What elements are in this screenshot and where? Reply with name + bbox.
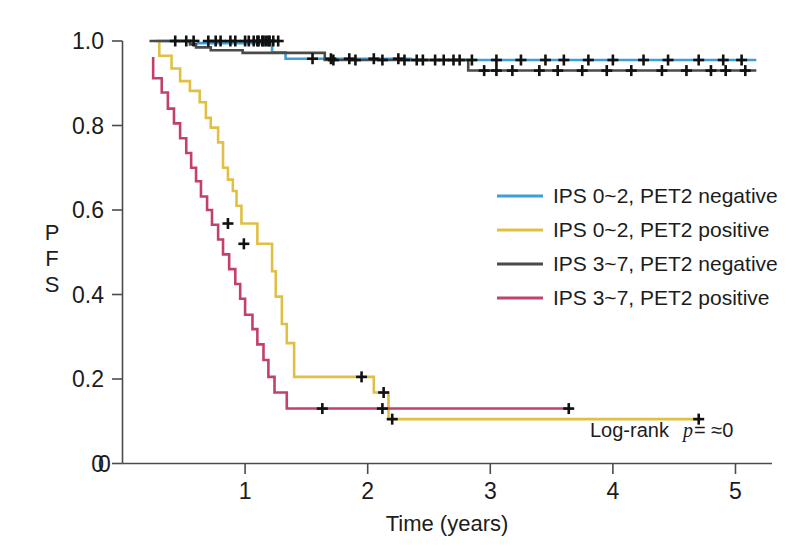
x-axis-title: Time (years) <box>386 511 509 536</box>
censor-mark <box>350 55 361 66</box>
legend-item-0: IPS 0~2, PET2 negative <box>497 184 778 207</box>
x-tick-label-5: 5 <box>729 478 742 504</box>
y-tick-marks <box>112 41 123 464</box>
censor-mark <box>663 55 674 66</box>
logrank-annotation: Log-rank p = ≈0 <box>590 419 733 442</box>
logrank-value: = ≈0 <box>694 419 733 441</box>
censor-mark <box>454 55 465 66</box>
x-tick-label-0: 0 <box>98 451 111 477</box>
censor-mark <box>377 55 388 66</box>
censor-mark <box>399 55 410 66</box>
censor-mark <box>681 65 692 76</box>
censor-mark <box>626 65 637 76</box>
censor-mark <box>356 371 367 382</box>
censor-mark <box>720 65 731 76</box>
censor-mark <box>534 65 545 76</box>
logrank-prefix: Log-rank <box>590 419 670 441</box>
censor-mark <box>328 55 339 66</box>
censor-mark <box>583 55 594 66</box>
censor-mark <box>417 55 428 66</box>
censor-mark <box>377 403 388 414</box>
censor-mark <box>736 55 747 66</box>
legend-label-2: IPS 3~7, PET2 negative <box>553 252 778 275</box>
y-tick-labels: 00.20.40.60.81.0 <box>72 28 104 477</box>
y-tick-label-0.2: 0.2 <box>72 366 104 392</box>
y-tick-label-1.0: 1.0 <box>72 28 104 54</box>
y-tick-label-0.4: 0.4 <box>72 282 104 308</box>
censor-mark <box>317 403 328 414</box>
censor-mark <box>507 65 518 76</box>
censor-mark <box>307 53 318 64</box>
logrank-p-symbol: p <box>681 419 693 442</box>
censor-mark <box>479 65 490 76</box>
x-tick-label-2: 2 <box>361 478 374 504</box>
x-tick-labels: 012345 <box>98 451 742 504</box>
censor-mark <box>705 65 716 76</box>
legend-label-1: IPS 0~2, PET2 positive <box>553 218 770 241</box>
censor-mark <box>638 55 649 66</box>
censor-mark <box>563 403 574 414</box>
censor-mark <box>656 65 667 76</box>
km-curve-3 <box>153 57 571 409</box>
chart-page: 00.20.40.60.81.0 012345 PFS Time (years)… <box>0 0 806 559</box>
censor-mark <box>718 55 729 66</box>
censor-mark <box>540 55 551 66</box>
censor-mark <box>601 65 612 76</box>
y-axis-title: PFS <box>45 220 60 297</box>
y-axis-title-char-S: S <box>45 272 60 297</box>
censor-mark <box>552 65 563 76</box>
legend-item-3: IPS 3~7, PET2 positive <box>497 286 770 309</box>
y-axis-title-char-P: P <box>45 220 60 245</box>
x-tick-label-4: 4 <box>606 478 619 504</box>
censor-mark <box>222 218 233 229</box>
legend-item-1: IPS 0~2, PET2 positive <box>497 218 770 241</box>
censor-mark <box>577 65 588 76</box>
x-tick-label-3: 3 <box>484 478 497 504</box>
censor-mark <box>740 65 751 76</box>
x-tick-label-1: 1 <box>239 478 252 504</box>
censor-mark <box>558 55 569 66</box>
x-tick-marks <box>245 464 735 475</box>
legend: IPS 0~2, PET2 negativeIPS 0~2, PET2 posi… <box>497 184 778 309</box>
legend-label-3: IPS 3~7, PET2 positive <box>553 286 770 309</box>
y-axis-title-char-F: F <box>45 246 58 271</box>
censor-mark <box>491 55 502 66</box>
censor-mark <box>515 55 526 66</box>
y-tick-label-0.8: 0.8 <box>72 113 104 139</box>
censor-mark <box>238 238 249 249</box>
censor-mark <box>607 55 618 66</box>
censor-mark <box>693 55 704 66</box>
legend-item-2: IPS 3~7, PET2 negative <box>497 252 778 275</box>
legend-label-0: IPS 0~2, PET2 negative <box>553 184 778 207</box>
y-tick-label-0.6: 0.6 <box>72 197 104 223</box>
censor-mark <box>438 55 449 66</box>
kaplan-meier-chart: 00.20.40.60.81.0 012345 PFS Time (years)… <box>0 0 806 559</box>
censor-mark <box>170 36 181 47</box>
censor-mark <box>491 65 502 76</box>
